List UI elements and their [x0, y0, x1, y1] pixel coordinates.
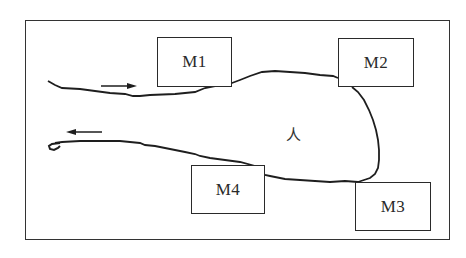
left-arrow-icon [66, 129, 102, 135]
box-m2: M2 [338, 38, 414, 87]
box-m4: M4 [191, 165, 265, 214]
box-m1: M1 [157, 37, 232, 87]
center-label: 人 [286, 123, 301, 144]
right-path [352, 87, 379, 182]
box-m1-label: M1 [182, 52, 207, 72]
right-arrow-icon [101, 83, 137, 89]
box-m3: M3 [355, 182, 431, 231]
box-m3-label: M3 [381, 197, 406, 217]
box-m2-label: M2 [364, 53, 389, 73]
box-m4-label: M4 [216, 180, 241, 200]
left-end-loop [49, 143, 60, 150]
